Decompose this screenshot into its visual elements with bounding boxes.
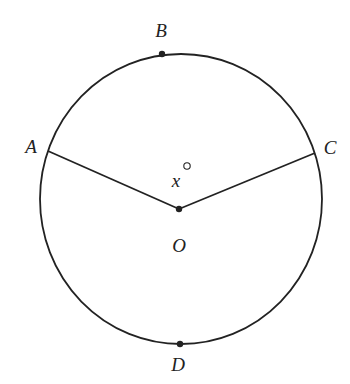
label-a: A <box>23 136 37 157</box>
label-d: D <box>170 354 185 375</box>
radius-oc <box>179 153 315 209</box>
degree-symbol-icon <box>184 163 190 169</box>
point-b <box>159 51 165 57</box>
circle <box>40 54 322 344</box>
center-point-o <box>176 206 182 212</box>
angle-label-x: x <box>171 170 181 191</box>
point-d <box>177 341 183 347</box>
radius-oa <box>48 151 179 209</box>
label-b: B <box>155 20 167 41</box>
label-c: C <box>324 137 337 158</box>
circle-diagram: A B C D O x <box>0 0 350 384</box>
label-o: O <box>172 235 186 256</box>
